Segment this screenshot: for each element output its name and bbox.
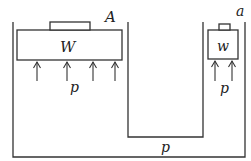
inner-divider (128, 22, 203, 137)
label-A: A (103, 8, 116, 26)
label-a: a (236, 3, 244, 19)
large-piston-knob (50, 22, 90, 30)
small-piston-knob (219, 24, 230, 30)
label-W: W (60, 38, 77, 56)
label-p-bottom: p (161, 139, 170, 155)
label-p-right: p (220, 80, 229, 96)
pressure-arrows-right (212, 61, 236, 81)
hydraulic-press-diagram: A W a w p p p (0, 0, 251, 161)
label-p-left: p (70, 79, 79, 95)
label-w: w (217, 38, 229, 54)
